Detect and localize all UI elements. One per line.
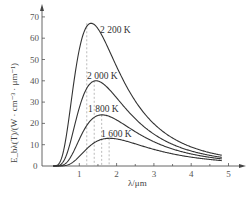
peak-dashed-lines	[87, 23, 109, 166]
curve-label-2000: 2 000 K	[87, 71, 118, 81]
curve-label-1600: 1 600 K	[101, 129, 132, 139]
y-axis-title: E_bλ(T)/(W · cm⁻³ · μm⁻¹)	[9, 63, 19, 163]
origin-label: 0	[33, 161, 38, 171]
x-axis-arrow-icon	[239, 164, 246, 168]
x-tick-label: 5	[226, 169, 231, 179]
x-axis-title: λ/μm	[128, 178, 147, 188]
curves	[53, 23, 222, 166]
y-tick-label: 20	[30, 118, 40, 128]
y-tick-label: 10	[30, 140, 40, 150]
x-tick-label: 2	[114, 169, 119, 179]
y-tick-label: 70	[30, 12, 40, 22]
y-ticks: 10203040506070	[30, 12, 45, 150]
y-tick-label: 30	[30, 97, 40, 107]
x-tick-label: 4	[189, 169, 194, 179]
curve-2000	[53, 81, 222, 166]
x-ticks: 12345	[61, 163, 232, 179]
x-tick-label: 1	[77, 169, 82, 179]
y-axis-arrow-icon	[40, 4, 44, 11]
y-tick-label: 60	[30, 33, 40, 43]
axes	[42, 9, 240, 166]
planck-radiation-chart: 10203040506070 12345 0 2 200 K 2 000 K 1…	[0, 0, 249, 197]
curve-label-1800: 1 800 K	[88, 104, 119, 114]
curve-label-2200: 2 200 K	[100, 25, 131, 35]
y-tick-label: 50	[30, 55, 40, 65]
x-tick-label: 3	[152, 169, 157, 179]
y-tick-label: 40	[30, 76, 40, 86]
